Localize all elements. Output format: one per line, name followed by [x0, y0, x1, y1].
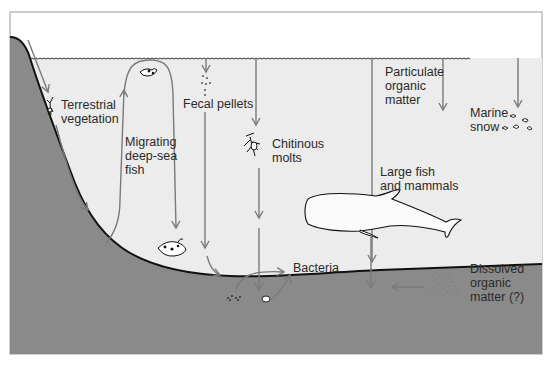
label-terrestrial-vegetation: Terrestrial vegetation — [61, 98, 119, 126]
label-chitinous-molts: Chitinous molts — [272, 137, 324, 165]
label-marine-snow: Marine snow — [470, 106, 508, 134]
label-dissolved-organic-matter: Dissolved organic matter (?) — [470, 262, 524, 304]
label-particulate-organic-matter: Particulate organic matter — [385, 65, 444, 107]
label-fecal-pellets: Fecal pellets — [183, 97, 253, 111]
label-bacteria: Bacteria — [293, 261, 339, 275]
ocean-organic-matter-diagram — [0, 0, 551, 365]
label-large-fish-mammals: Large fish and mammals — [380, 165, 459, 193]
label-migrating-fish: Migrating deep-sea fish — [125, 135, 177, 177]
